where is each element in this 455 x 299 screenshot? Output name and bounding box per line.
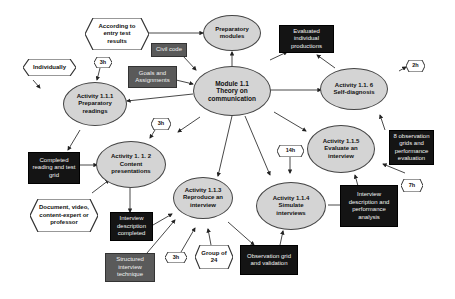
condition-label: According to entry test results	[99, 23, 136, 46]
resource-structured-interview[interactable]: Structured interview technique	[105, 253, 155, 282]
node-activity-1-1-1[interactable]: Activity 1.1.1 Preparatory readings	[63, 82, 127, 126]
product-interview-performance[interactable]: Interview description and performance an…	[340, 185, 398, 227]
duration-7h-a115: 7h	[401, 179, 423, 192]
duration-2h-a116: 2h	[406, 60, 425, 72]
node-activity-1-1-5[interactable]: Activity 1.1.5 Evaluate an interview	[307, 125, 375, 173]
product-interview-description[interactable]: Interview description completed	[110, 212, 153, 241]
condition-document-video: Document, video, content-expert or profe…	[30, 199, 98, 232]
resource-goals-assignments[interactable]: Goals and Assignments	[128, 66, 177, 88]
node-activity-1-1-6[interactable]: Activity 1.1. 6 Self-diagnosis	[320, 68, 388, 110]
node-module-1-1[interactable]: Module 1.1 Theory on communication	[193, 66, 271, 116]
duration-3h-a113: 3h	[165, 252, 187, 263]
product-eight-observation-grids[interactable]: 8 observation grids and performance eval…	[389, 130, 434, 165]
node-activity-1-1-4[interactable]: Activity 1.1.4 Simulate interviews	[256, 182, 326, 230]
resource-civil-code[interactable]: Civil code	[151, 43, 187, 57]
duration-14h-a114: 14h	[277, 145, 304, 157]
node-activity-1-1-2[interactable]: Activity 1. 1. 2 Content presentations	[96, 141, 166, 188]
product-completed-reading[interactable]: Completed reading and test grid	[28, 152, 80, 184]
duration-3h-a111: 3h	[94, 57, 112, 68]
node-activity-1-1-3[interactable]: Activity 1.1.3 Reproduce an interview	[173, 177, 233, 219]
duration-3h-a112: 3h	[151, 118, 171, 130]
concept-map: According to entry test results Preparat…	[0, 0, 455, 299]
product-observation-grid[interactable]: Observation grid and validation	[240, 245, 298, 275]
product-evaluated-productions[interactable]: Evaluated individual productions	[279, 25, 334, 53]
condition-individually: Individually	[23, 59, 76, 76]
condition-group-of-24: Group of 24	[195, 245, 233, 269]
node-preparatory-modules[interactable]: Preparatory modules	[203, 15, 261, 51]
condition-entry-test: According to entry test results	[85, 18, 149, 50]
